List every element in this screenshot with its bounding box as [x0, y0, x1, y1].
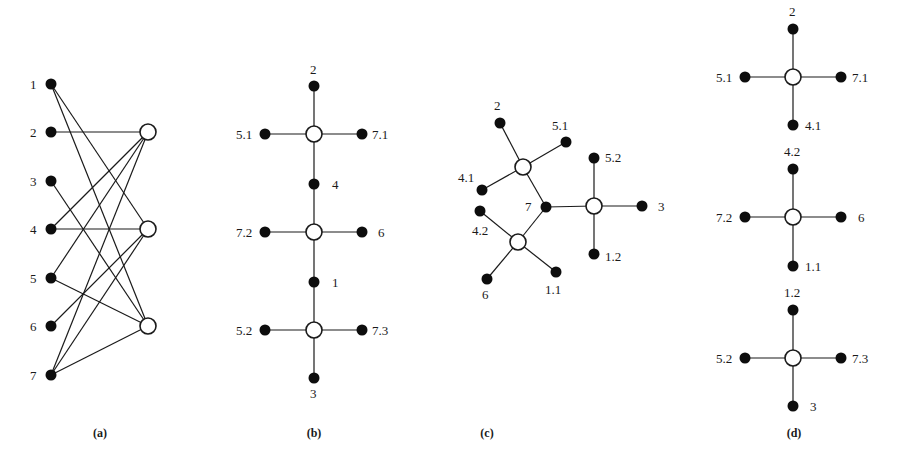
- node-label: 1.1: [545, 282, 561, 297]
- node-label: 1.2: [784, 285, 800, 300]
- filled-node-icon: [637, 201, 648, 212]
- node-label: 1: [30, 77, 37, 92]
- hollow-node-icon: [140, 221, 156, 237]
- node-label: 2: [310, 62, 317, 77]
- edge-7-C: [51, 326, 148, 375]
- filled-node-icon: [551, 267, 562, 278]
- hollow-node-icon: [785, 350, 801, 366]
- panel-c-joined-tree: 725.14.14.261.15.231.2 (c): [458, 98, 665, 440]
- node-label: 2: [789, 4, 796, 19]
- node-label: 3: [30, 174, 37, 189]
- node-label: 5.2: [716, 351, 732, 366]
- nodes: [475, 118, 648, 285]
- node-label: 1: [332, 275, 339, 290]
- filled-node-icon: [357, 325, 368, 336]
- node-label: 7.3: [852, 351, 868, 366]
- filled-node-icon: [46, 224, 57, 235]
- filled-node-icon: [788, 164, 799, 175]
- hollow-node-icon: [306, 126, 322, 142]
- hollow-node-icon: [785, 69, 801, 85]
- node-label: 6: [482, 287, 489, 302]
- node-label: 2: [30, 125, 37, 140]
- node-label: 5.2: [605, 150, 621, 165]
- filled-node-icon: [482, 274, 493, 285]
- filled-node-icon: [309, 373, 320, 384]
- node-label: 3: [310, 386, 317, 401]
- node-label: 4.1: [458, 170, 474, 185]
- filled-node-icon: [309, 277, 320, 288]
- edge-5-A: [51, 132, 148, 278]
- hollow-node-icon: [140, 124, 156, 140]
- filled-node-icon: [309, 179, 320, 190]
- node-label: 4: [30, 222, 37, 237]
- filled-node-icon: [740, 72, 751, 83]
- node-label: 1.2: [605, 249, 621, 264]
- hollow-node-icon: [140, 318, 156, 334]
- filled-node-icon: [260, 129, 271, 140]
- caption-b: (b): [307, 426, 322, 440]
- filled-node-icon: [836, 72, 847, 83]
- filled-node-icon: [740, 353, 751, 364]
- filled-node-icon: [357, 129, 368, 140]
- filled-node-icon: [495, 118, 506, 129]
- node-label: 7.1: [372, 127, 388, 142]
- node-label: 4: [332, 177, 339, 192]
- node-label: 4.2: [472, 223, 488, 238]
- filled-node-icon: [788, 24, 799, 35]
- caption-d: (d): [787, 426, 802, 440]
- filled-node-icon: [46, 127, 57, 138]
- node-label: 5.2: [236, 323, 252, 338]
- edge-6-B: [51, 229, 148, 326]
- filled-node-icon: [788, 305, 799, 316]
- node-label: 5.1: [236, 127, 252, 142]
- filled-node-icon: [475, 206, 486, 217]
- hollow-node-icon: [515, 159, 531, 175]
- caption-c: (c): [480, 426, 493, 440]
- node-label: 5.1: [552, 118, 568, 133]
- node-label: 1.1: [805, 259, 821, 274]
- filled-node-icon: [477, 185, 488, 196]
- edge-7-B: [51, 229, 148, 375]
- node-label: 2: [494, 98, 501, 113]
- hollow-node-icon: [586, 198, 602, 214]
- node-label: 7: [525, 199, 532, 214]
- node-label: 7.3: [372, 323, 388, 338]
- hollow-node-icon: [510, 234, 526, 250]
- hollow-node-icon: [306, 322, 322, 338]
- node-label: 7.2: [716, 210, 732, 225]
- node-label: 7.2: [236, 225, 252, 240]
- graph-figure: 1234567 (a) 25.17.147.2615.27.33 (b) 725…: [0, 0, 899, 471]
- node-label: 4.2: [784, 144, 800, 159]
- filled-node-icon: [46, 176, 57, 187]
- edge-1-B: [51, 84, 148, 229]
- edge-4-A: [51, 132, 148, 229]
- node-label: 7.1: [852, 70, 868, 85]
- filled-node-icon: [740, 212, 751, 223]
- node-label: 4.1: [805, 118, 821, 133]
- node-label: 5.1: [716, 70, 732, 85]
- node-labels: 1234567: [30, 77, 37, 383]
- panel-a-bipartite-graph: 1234567 (a): [30, 77, 156, 440]
- filled-node-icon: [788, 261, 799, 272]
- filled-node-icon: [309, 81, 320, 92]
- filled-node-icon: [589, 153, 600, 164]
- hollow-node-icon: [785, 209, 801, 225]
- hollow-node-icon: [306, 224, 322, 240]
- panel-d-separate-stars: 25.17.14.14.27.261.11.25.27.33 (d): [716, 4, 868, 440]
- filled-node-icon: [260, 227, 271, 238]
- filled-node-icon: [357, 227, 368, 238]
- node-label: 6: [378, 225, 385, 240]
- filled-node-icon: [541, 202, 552, 213]
- filled-node-icon: [836, 353, 847, 364]
- edges: [51, 84, 148, 375]
- node-label: 3: [810, 399, 817, 414]
- filled-node-icon: [589, 249, 600, 260]
- filled-node-icon: [46, 370, 57, 381]
- edge-7-A: [51, 132, 148, 375]
- node-label: 6: [858, 210, 865, 225]
- node-label: 7: [30, 368, 37, 383]
- node-label: 5: [30, 271, 37, 286]
- filled-node-icon: [46, 321, 57, 332]
- filled-node-icon: [561, 137, 572, 148]
- filled-node-icon: [788, 120, 799, 131]
